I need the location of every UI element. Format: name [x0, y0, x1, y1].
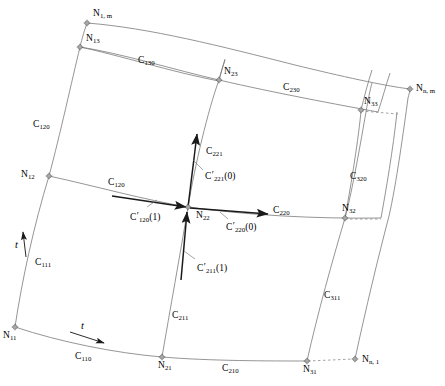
node-label-N11: N11 — [3, 331, 17, 341]
node-label-subscript: 32 — [349, 207, 356, 214]
curve-label-C110: C110 — [75, 352, 91, 362]
node-label-base: N — [362, 354, 369, 364]
node-label-subscript: 11 — [10, 334, 17, 341]
leader-Cp211 — [184, 251, 195, 259]
node-label-N21: N21 — [158, 361, 172, 371]
node-label-N22: N22 — [196, 211, 210, 221]
node-label-subscript: 23 — [231, 70, 238, 77]
node-marker-Nnm — [407, 86, 414, 93]
node-label-base: N — [224, 66, 231, 76]
curve-band-connector-top2 — [378, 73, 390, 112]
derivative-label-Cp120: C′120(1) — [130, 213, 161, 223]
node-label-Nn1: Nn, 1 — [362, 355, 379, 365]
curve-band-connector-mid2 — [381, 112, 397, 218]
curve-label-C211: C211 — [172, 311, 188, 321]
node-label-subscript: 1, m — [100, 12, 112, 19]
node-marker-N11 — [12, 324, 19, 331]
curve-label-C320: C320 — [350, 172, 367, 182]
node-label-N13: N13 — [86, 34, 100, 44]
derivative-label-argument: (0) — [224, 171, 235, 181]
curve-label-subscript: 120 — [39, 123, 49, 130]
node-marker-N32 — [342, 215, 349, 222]
derivative-label-argument: (1) — [216, 263, 227, 273]
node-label-subscript: n, m — [423, 87, 435, 94]
derivative-label-Cp220: C′220(0) — [226, 223, 257, 233]
node-marker-N23 — [216, 77, 223, 84]
node-label-subscript: 31 — [310, 368, 317, 375]
node-label-base: N — [342, 203, 349, 213]
curve-label-subscript: 211 — [178, 314, 188, 321]
curve-label-subscript: 220 — [279, 209, 289, 216]
t-horizontal-arrow — [70, 332, 104, 343]
node-label-subscript: 33 — [371, 100, 378, 107]
node-label-base: N — [158, 360, 165, 370]
leader-Cp220 — [220, 212, 228, 219]
node-label-base: N — [3, 330, 10, 340]
node-label-N33: N33 — [364, 97, 378, 107]
node-label-base: N — [21, 169, 28, 179]
curve-label-C111: C111 — [35, 258, 51, 268]
node-label-base: N — [93, 8, 100, 18]
leader-Cp221 — [193, 160, 203, 170]
node-label-N1m: N1, m — [93, 9, 112, 19]
curve-label-subscript: 210 — [228, 367, 238, 374]
mesh-diagram-canvas: N1, mN13N23N33Nn, mN12N22N32N11N21N31Nn,… — [0, 0, 445, 386]
dash-N33-to-right — [361, 111, 398, 114]
node-marker-N1m — [84, 20, 91, 27]
curve-C120-C220 — [49, 176, 381, 218]
node-label-N32: N32 — [342, 204, 356, 214]
dashed-continuations — [308, 111, 398, 361]
curve-C130-C230 — [80, 47, 378, 112]
curve-label-C230: C230 — [283, 83, 300, 93]
vector-Cp221-arrow — [188, 134, 197, 207]
derivative-label-subscript: 211 — [206, 267, 216, 274]
node-marker-N12 — [46, 173, 53, 180]
node-marker-group — [12, 20, 414, 365]
curve-label-C120h: C120 — [108, 178, 125, 188]
derivative-label-Cp211: C′211(1) — [197, 264, 227, 274]
node-marker-N13 — [77, 44, 84, 51]
curve-label-C120v: C120 — [33, 120, 50, 130]
node-label-N23: N23 — [224, 67, 238, 77]
curve-label-subscript: 320 — [356, 175, 366, 182]
curve-top-outer — [87, 23, 410, 89]
node-label-N31: N31 — [303, 365, 317, 375]
curve-label-C210: C210 — [222, 364, 239, 374]
node-label-base: N — [416, 83, 423, 93]
vertical-curve-family — [15, 23, 410, 361]
curve-label-subscript: 120 — [114, 181, 124, 188]
parameter-label-t-horizontal: t — [81, 320, 84, 331]
node-label-subscript: 22 — [203, 214, 210, 221]
curve-label-C130: C130 — [138, 56, 155, 66]
node-label-base: N — [196, 210, 203, 220]
parameter-arrow-group — [23, 232, 104, 343]
curve-label-C221: C221 — [206, 147, 223, 157]
curve-C311-C320-right — [307, 83, 372, 361]
derivative-label-argument: (1) — [149, 212, 160, 222]
node-label-Nnm: Nn, m — [416, 84, 435, 94]
node-label-subscript: 21 — [165, 364, 172, 371]
derivative-label-subscript: 221 — [214, 175, 224, 182]
derivative-label-argument: (0) — [245, 222, 256, 232]
node-marker-Nn1 — [352, 356, 359, 363]
vector-Cp211-arrow — [181, 212, 187, 280]
derivative-label-subscript: 120 — [139, 216, 149, 223]
curve-label-subscript: 130 — [144, 59, 154, 66]
dash-N31-to-Nn1 — [308, 359, 354, 361]
curve-label-subscript: 111 — [41, 261, 51, 268]
node-marker-N33 — [358, 107, 365, 114]
curve-label-C311: C311 — [324, 291, 340, 301]
node-label-subscript: n, 1 — [369, 358, 379, 365]
derivative-label-Cp221: C′221(0) — [205, 172, 236, 182]
node-marker-N22 — [185, 204, 192, 211]
node-label-subscript: 13 — [93, 37, 100, 44]
curve-label-subscript: 110 — [81, 355, 91, 362]
t-vertical-arrow — [23, 232, 26, 257]
node-label-subscript: 12 — [28, 173, 35, 180]
curve-label-C220: C220 — [273, 206, 290, 216]
curve-label-subscript: 311 — [330, 294, 340, 301]
derivative-label-subscript: 220 — [235, 226, 245, 233]
node-label-N12: N12 — [21, 170, 35, 180]
curve-label-subscript: 230 — [289, 86, 299, 93]
node-label-base: N — [364, 96, 371, 106]
